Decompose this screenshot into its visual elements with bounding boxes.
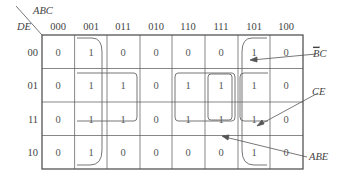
groupings	[77, 38, 268, 165]
cell: 0	[283, 114, 288, 125]
cell: 1	[185, 114, 190, 125]
cell: 0	[153, 47, 158, 58]
cell: 0	[185, 47, 190, 58]
cell: 1	[120, 80, 125, 91]
row-header: 01	[28, 80, 39, 91]
cell: 0	[55, 47, 60, 58]
cell: 0	[153, 114, 158, 125]
col-header: 011	[115, 21, 130, 32]
cell: 1	[251, 47, 256, 58]
karnaugh-map: ABC DE 000 001 011 010 110 111 101 100 0…	[0, 0, 346, 181]
row-header: 00	[28, 47, 39, 58]
cell: 1	[88, 80, 93, 91]
cell: 1	[251, 80, 256, 91]
cell: 0	[55, 147, 60, 158]
cell: 1	[185, 80, 190, 91]
col-header: 100	[278, 21, 294, 32]
cell: 0	[120, 147, 125, 158]
cell: 1	[218, 80, 223, 91]
row-header: 10	[28, 147, 39, 158]
col-header: 001	[83, 21, 99, 32]
cell: 0	[218, 47, 223, 58]
cell: 1	[120, 114, 125, 125]
row-headers: 00 01 11 10	[28, 47, 39, 158]
annotation-ce: CE	[312, 86, 326, 97]
col-header: 111	[214, 21, 229, 32]
annotation-abe: ABE	[308, 151, 329, 162]
cell: 1	[88, 147, 93, 158]
cell: 0	[153, 147, 158, 158]
cell: 1	[251, 114, 256, 125]
col-header: 000	[50, 21, 66, 32]
cell: 1	[251, 147, 256, 158]
cell: 0	[283, 80, 288, 91]
row-header: 11	[28, 114, 38, 125]
cell: 0	[55, 114, 60, 125]
cell: 0	[218, 147, 223, 158]
col-var-label: ABC	[32, 5, 54, 16]
grid	[42, 35, 303, 169]
annotation-bc-bar: BC	[313, 48, 327, 59]
cell: 0	[185, 147, 190, 158]
c-part: C	[319, 48, 327, 59]
col-header: 010	[148, 21, 164, 32]
row-var-label: DE	[16, 21, 32, 32]
col-header: 110	[180, 21, 195, 32]
col-header: 101	[246, 21, 262, 32]
column-headers: 000 001 011 010 110 111 101 100	[50, 21, 294, 32]
cell: 1	[218, 114, 223, 125]
cell: 0	[153, 80, 158, 91]
cell: 0	[55, 80, 60, 91]
cell: 1	[88, 47, 93, 58]
cell: 0	[120, 47, 125, 58]
cell: 1	[88, 114, 93, 125]
